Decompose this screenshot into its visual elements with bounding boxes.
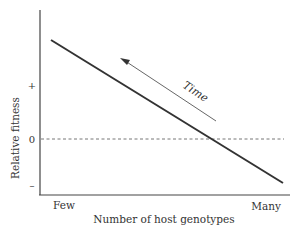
fitness-line <box>51 40 283 183</box>
chart: Time + 0 – Relative fitness Few Many Num… <box>0 0 299 236</box>
y-axis-label: Relative fitness <box>9 97 21 179</box>
time-label: Time <box>180 79 211 105</box>
y-tick-zero: 0 <box>29 134 35 145</box>
y-tick-plus: + <box>28 80 36 91</box>
x-tick-few: Few <box>53 199 75 211</box>
arrowhead-icon <box>120 58 130 65</box>
x-tick-many: Many <box>251 200 281 212</box>
y-tick-minus: – <box>30 180 35 191</box>
x-axis-label: Number of host genotypes <box>93 213 234 225</box>
